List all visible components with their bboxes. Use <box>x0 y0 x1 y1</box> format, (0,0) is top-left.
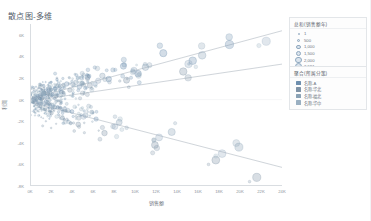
scatter-point[interactable] <box>90 110 94 114</box>
scatter-point[interactable] <box>50 103 51 104</box>
scatter-point[interactable] <box>63 118 65 120</box>
scatter-point[interactable] <box>57 110 60 113</box>
scatter-point[interactable] <box>262 37 270 45</box>
scatter-point[interactable] <box>180 68 187 75</box>
scatter-point[interactable] <box>156 134 163 141</box>
scatter-point[interactable] <box>49 118 51 120</box>
scatter-point[interactable] <box>34 115 36 117</box>
scatter-point[interactable] <box>198 52 206 60</box>
scatter-point[interactable] <box>68 88 73 93</box>
scatter-point[interactable] <box>174 122 177 125</box>
scatter-point[interactable] <box>68 77 70 79</box>
scatter-point[interactable] <box>45 81 46 82</box>
scatter-point[interactable] <box>47 97 49 99</box>
scatter-point[interactable] <box>48 110 50 112</box>
scatter-point[interactable] <box>80 71 84 75</box>
scatter-point[interactable] <box>94 85 97 88</box>
scatter-point[interactable] <box>47 92 49 94</box>
scatter-point[interactable] <box>127 86 130 89</box>
scatter-point[interactable] <box>129 76 132 79</box>
scatter-point[interactable] <box>39 85 41 87</box>
scatter-point[interactable] <box>53 110 55 112</box>
scatter-point[interactable] <box>108 80 112 84</box>
size-legend-item[interactable]: 2,000 <box>294 57 362 64</box>
scatter-point[interactable] <box>41 117 42 118</box>
scatter-point[interactable] <box>53 93 54 94</box>
scatter-point[interactable] <box>48 107 49 108</box>
scatter-point[interactable] <box>121 57 126 62</box>
scatter-point[interactable] <box>71 95 73 97</box>
scatter-point[interactable] <box>35 86 37 88</box>
scatter-point[interactable] <box>91 121 93 123</box>
scatter-point[interactable] <box>185 60 193 68</box>
scatter-point[interactable] <box>207 163 210 166</box>
scatter-point[interactable] <box>41 101 43 103</box>
scatter-point[interactable] <box>72 115 75 118</box>
scatter-point[interactable] <box>32 99 34 101</box>
scatter-point[interactable] <box>31 92 32 94</box>
color-legend[interactable]: 聚合(所属分策) 名称-A名称-华北名称-福北名称-华中 <box>289 66 367 110</box>
size-legend-item[interactable]: 1,500 <box>294 50 362 57</box>
scatter-point[interactable] <box>225 40 233 48</box>
scatter-point[interactable] <box>253 173 261 181</box>
scatter-point[interactable] <box>39 91 41 93</box>
scatter-point[interactable] <box>63 84 65 86</box>
scatter-point[interactable] <box>41 97 42 98</box>
scatter-point[interactable] <box>89 105 92 108</box>
scatter-point[interactable] <box>86 109 88 111</box>
scatter-point[interactable] <box>64 98 66 100</box>
scatter-point[interactable] <box>68 83 70 85</box>
scatter-point[interactable] <box>35 90 36 91</box>
scatter-point[interactable] <box>42 81 43 82</box>
scatter-point[interactable] <box>31 88 32 89</box>
scatter-point[interactable] <box>60 80 62 82</box>
scatter-point[interactable] <box>42 106 43 107</box>
scatter-point[interactable] <box>77 81 79 83</box>
scatter-point[interactable] <box>69 95 70 96</box>
scatter-point[interactable] <box>41 110 42 111</box>
scatter-point[interactable] <box>61 115 63 117</box>
scatter-point[interactable] <box>34 91 36 93</box>
scatter-point[interactable] <box>45 120 47 122</box>
scatter-point[interactable] <box>54 83 56 85</box>
scatter-point[interactable] <box>96 78 101 83</box>
size-legend-item[interactable]: 500 <box>294 37 362 44</box>
scatter-point[interactable] <box>54 89 57 92</box>
scatter-point[interactable] <box>121 74 125 78</box>
scatter-point[interactable] <box>157 43 163 49</box>
scatter-point[interactable] <box>120 128 124 132</box>
scatter-point[interactable] <box>56 100 58 102</box>
scatter-point[interactable] <box>72 88 74 90</box>
scatter-point[interactable] <box>47 99 49 101</box>
scatter-point[interactable] <box>59 115 60 116</box>
scatter-point[interactable] <box>78 76 80 78</box>
scatter-point[interactable] <box>59 99 61 101</box>
scatter-point[interactable] <box>52 92 53 93</box>
scatter-point[interactable] <box>42 125 44 127</box>
scatter-point[interactable] <box>60 94 63 97</box>
scatter-point[interactable] <box>56 77 58 79</box>
scatter-point[interactable] <box>43 84 44 85</box>
scatter-point[interactable] <box>55 123 57 125</box>
scatter-point[interactable] <box>37 95 40 98</box>
scatter-point[interactable] <box>60 118 62 120</box>
scatter-point[interactable] <box>143 62 147 66</box>
scatter-point[interactable] <box>154 145 160 151</box>
scatter-point[interactable] <box>59 92 61 94</box>
scatter-point[interactable] <box>41 103 43 105</box>
scatter-point[interactable] <box>87 75 90 78</box>
scatter-point[interactable] <box>91 81 93 83</box>
scatter-point[interactable] <box>54 72 57 75</box>
scatter-point[interactable] <box>114 134 118 138</box>
scatter-point[interactable] <box>49 94 51 96</box>
scatter-point[interactable] <box>39 109 40 110</box>
scatter-point[interactable] <box>65 102 68 105</box>
scatter-point[interactable] <box>52 98 53 99</box>
scatter-point[interactable] <box>43 87 45 89</box>
scatter-point[interactable] <box>83 110 86 113</box>
scatter-point[interactable] <box>137 81 141 85</box>
scatter-point[interactable] <box>47 116 49 118</box>
scatter-point[interactable] <box>79 107 83 111</box>
scatter-point[interactable] <box>75 115 77 117</box>
scatter-point[interactable] <box>41 109 42 110</box>
